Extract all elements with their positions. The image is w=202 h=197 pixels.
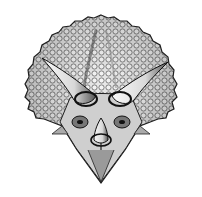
right-eye — [114, 116, 130, 128]
triceratops-illustration — [0, 0, 202, 197]
left-eye — [72, 116, 88, 128]
